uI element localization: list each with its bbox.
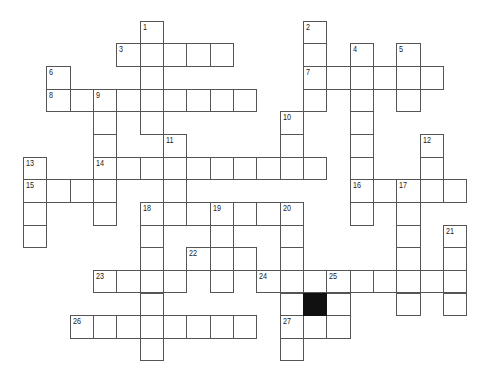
crossword-cell[interactable] bbox=[233, 247, 257, 271]
crossword-cell[interactable] bbox=[396, 225, 420, 249]
crossword-cell[interactable] bbox=[140, 225, 164, 249]
crossword-cell[interactable] bbox=[233, 89, 257, 113]
crossword-cell[interactable] bbox=[163, 43, 187, 67]
crossword-cell[interactable] bbox=[163, 179, 187, 203]
crossword-cell[interactable] bbox=[210, 157, 234, 181]
crossword-cell[interactable] bbox=[303, 157, 327, 181]
crossword-cell[interactable] bbox=[280, 134, 304, 158]
crossword-cell[interactable] bbox=[140, 270, 164, 294]
crossword-cell[interactable] bbox=[396, 293, 420, 317]
crossword-cell[interactable] bbox=[396, 270, 420, 294]
crossword-cell[interactable]: 1 bbox=[140, 21, 164, 45]
crossword-cell[interactable] bbox=[210, 225, 234, 249]
crossword-cell[interactable] bbox=[93, 202, 117, 226]
crossword-cell[interactable]: 27 bbox=[280, 315, 304, 339]
crossword-cell[interactable] bbox=[256, 157, 280, 181]
crossword-cell[interactable] bbox=[186, 89, 210, 113]
crossword-cell[interactable] bbox=[210, 89, 234, 113]
crossword-cell[interactable] bbox=[210, 43, 234, 67]
crossword-cell[interactable] bbox=[420, 157, 444, 181]
crossword-cell[interactable] bbox=[303, 89, 327, 113]
crossword-cell[interactable] bbox=[140, 315, 164, 339]
crossword-cell[interactable]: 22 bbox=[186, 247, 210, 271]
crossword-cell[interactable] bbox=[280, 338, 304, 362]
crossword-cell[interactable] bbox=[210, 247, 234, 271]
crossword-cell[interactable]: 14 bbox=[93, 157, 117, 181]
crossword-cell[interactable]: 2 bbox=[303, 21, 327, 45]
crossword-cell[interactable] bbox=[140, 43, 164, 67]
crossword-cell[interactable] bbox=[443, 179, 467, 203]
crossword-cell[interactable] bbox=[350, 111, 374, 135]
crossword-cell[interactable]: 26 bbox=[70, 315, 94, 339]
crossword-cell[interactable] bbox=[210, 270, 234, 294]
crossword-cell[interactable]: 13 bbox=[23, 157, 47, 181]
crossword-cell[interactable] bbox=[420, 270, 444, 294]
crossword-cell[interactable] bbox=[350, 270, 374, 294]
crossword-cell[interactable]: 21 bbox=[443, 225, 467, 249]
crossword-cell[interactable] bbox=[233, 315, 257, 339]
crossword-cell[interactable] bbox=[186, 202, 210, 226]
crossword-cell[interactable] bbox=[373, 179, 397, 203]
crossword-cell[interactable] bbox=[140, 66, 164, 90]
crossword-cell[interactable] bbox=[373, 66, 397, 90]
crossword-cell[interactable]: 9 bbox=[93, 89, 117, 113]
crossword-cell[interactable] bbox=[303, 270, 327, 294]
crossword-cell[interactable] bbox=[443, 270, 467, 294]
crossword-cell[interactable] bbox=[326, 315, 350, 339]
crossword-cell[interactable] bbox=[140, 247, 164, 271]
crossword-cell[interactable]: 10 bbox=[280, 111, 304, 135]
crossword-cell[interactable]: 17 bbox=[396, 179, 420, 203]
crossword-cell[interactable] bbox=[163, 157, 187, 181]
crossword-cell[interactable] bbox=[326, 66, 350, 90]
crossword-cell[interactable] bbox=[140, 293, 164, 317]
crossword-cell[interactable] bbox=[186, 315, 210, 339]
crossword-cell[interactable] bbox=[233, 157, 257, 181]
crossword-cell[interactable] bbox=[420, 66, 444, 90]
crossword-cell[interactable] bbox=[163, 89, 187, 113]
crossword-cell[interactable] bbox=[350, 157, 374, 181]
crossword-cell[interactable] bbox=[163, 202, 187, 226]
crossword-cell[interactable] bbox=[280, 225, 304, 249]
crossword-cell[interactable] bbox=[350, 134, 374, 158]
crossword-cell[interactable]: 7 bbox=[303, 66, 327, 90]
crossword-cell[interactable]: 5 bbox=[396, 43, 420, 67]
crossword-cell[interactable] bbox=[163, 270, 187, 294]
crossword-cell[interactable] bbox=[396, 66, 420, 90]
crossword-cell[interactable] bbox=[140, 111, 164, 135]
crossword-cell[interactable] bbox=[443, 293, 467, 317]
crossword-cell[interactable] bbox=[373, 270, 397, 294]
crossword-cell[interactable] bbox=[303, 43, 327, 67]
crossword-cell[interactable] bbox=[93, 179, 117, 203]
crossword-cell[interactable] bbox=[93, 134, 117, 158]
crossword-cell[interactable] bbox=[280, 247, 304, 271]
crossword-cell[interactable] bbox=[186, 43, 210, 67]
crossword-cell[interactable] bbox=[303, 315, 327, 339]
crossword-cell[interactable] bbox=[350, 202, 374, 226]
crossword-cell[interactable] bbox=[256, 202, 280, 226]
crossword-cell[interactable] bbox=[210, 315, 234, 339]
crossword-cell[interactable]: 19 bbox=[210, 202, 234, 226]
crossword-cell[interactable] bbox=[280, 157, 304, 181]
crossword-cell[interactable] bbox=[163, 315, 187, 339]
crossword-cell[interactable]: 12 bbox=[420, 134, 444, 158]
crossword-cell[interactable] bbox=[116, 270, 140, 294]
crossword-cell[interactable]: 6 bbox=[46, 66, 70, 90]
crossword-cell[interactable] bbox=[186, 157, 210, 181]
crossword-cell[interactable]: 3 bbox=[116, 43, 140, 67]
crossword-cell[interactable] bbox=[116, 157, 140, 181]
crossword-cell[interactable] bbox=[280, 270, 304, 294]
crossword-cell[interactable] bbox=[140, 89, 164, 113]
crossword-cell[interactable] bbox=[350, 89, 374, 113]
crossword-cell[interactable] bbox=[280, 293, 304, 317]
crossword-cell[interactable]: 11 bbox=[163, 134, 187, 158]
crossword-cell[interactable]: 8 bbox=[46, 89, 70, 113]
crossword-cell[interactable] bbox=[116, 315, 140, 339]
crossword-cell[interactable]: 23 bbox=[93, 270, 117, 294]
crossword-cell[interactable]: 25 bbox=[326, 270, 350, 294]
crossword-cell[interactable] bbox=[140, 157, 164, 181]
crossword-cell[interactable]: 16 bbox=[350, 179, 374, 203]
crossword-cell[interactable] bbox=[93, 111, 117, 135]
crossword-cell[interactable] bbox=[233, 202, 257, 226]
crossword-cell[interactable]: 24 bbox=[256, 270, 280, 294]
crossword-cell[interactable] bbox=[70, 89, 94, 113]
